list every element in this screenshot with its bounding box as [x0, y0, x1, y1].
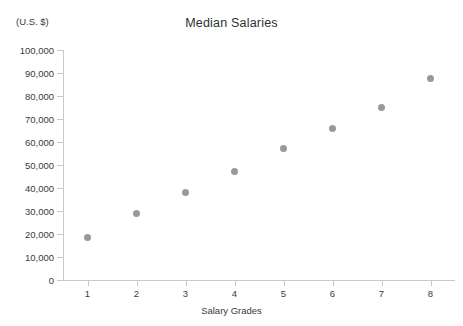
y-axis-tick — [57, 165, 63, 166]
x-axis-tick-label: 8 — [416, 288, 446, 299]
x-axis-tick-label: 6 — [318, 288, 348, 299]
y-axis-tick-label: 70,000 — [25, 114, 54, 125]
y-axis-tick — [57, 96, 63, 97]
y-axis-tick — [57, 50, 63, 51]
data-point — [378, 104, 385, 111]
y-axis-tick — [57, 234, 63, 235]
x-axis-tick-label: 4 — [220, 288, 250, 299]
x-axis-tick — [382, 281, 383, 286]
y-axis-tick — [57, 119, 63, 120]
data-point — [133, 210, 140, 217]
x-axis-tick — [88, 281, 89, 286]
y-axis-tick-label: 30,000 — [25, 206, 54, 217]
y-axis-tick-label: 20,000 — [25, 229, 54, 240]
y-axis-tick — [57, 280, 63, 281]
y-axis-tick — [57, 257, 63, 258]
x-axis-tick-label: 3 — [171, 288, 201, 299]
x-axis-tick — [284, 281, 285, 286]
x-axis-tick — [235, 281, 236, 286]
x-axis-tick-label: 2 — [122, 288, 152, 299]
x-axis-tick — [431, 281, 432, 286]
chart-title: Median Salaries — [0, 16, 463, 30]
x-axis-tick-label: 5 — [269, 288, 299, 299]
scatter-chart: (U.S. $) Median Salaries 100,00090,00080… — [0, 0, 463, 326]
y-axis-tick — [57, 211, 63, 212]
data-point — [329, 125, 336, 132]
y-axis-tick-label: 80,000 — [25, 91, 54, 102]
x-axis-tick — [186, 281, 187, 286]
y-axis-tick-label: 0 — [49, 275, 54, 286]
y-axis-tick-label: 90,000 — [25, 68, 54, 79]
y-axis-tick-label: 50,000 — [25, 160, 54, 171]
x-axis-tick-label: 1 — [73, 288, 103, 299]
y-axis-tick-label: 100,000 — [20, 45, 54, 56]
x-axis-title: Salary Grades — [0, 305, 463, 316]
x-axis-tick — [333, 281, 334, 286]
y-axis-tick — [57, 188, 63, 189]
y-axis-tick — [57, 73, 63, 74]
x-axis-tick-label: 7 — [367, 288, 397, 299]
plot-area — [63, 50, 455, 280]
y-axis-tick-label: 10,000 — [25, 252, 54, 263]
x-axis-line — [63, 280, 455, 281]
y-axis-tick — [57, 142, 63, 143]
y-axis-tick-label: 40,000 — [25, 183, 54, 194]
data-point — [84, 234, 91, 241]
y-axis-tick-label: 60,000 — [25, 137, 54, 148]
x-axis-tick — [137, 281, 138, 286]
